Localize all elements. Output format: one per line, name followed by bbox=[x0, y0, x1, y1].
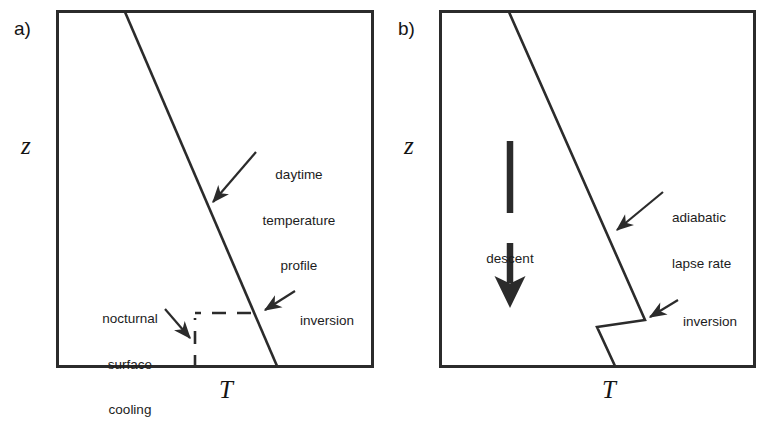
annotation-descent: descent bbox=[470, 221, 550, 297]
annotation-line: inversion bbox=[300, 313, 378, 328]
annotation-inversion-a: inversion bbox=[300, 283, 378, 359]
annotation-daytime-temperature-profile: daytime temperature profile bbox=[246, 137, 352, 303]
annotation-adiabatic-lapse-rate: adiabatic lapse rate bbox=[672, 180, 768, 301]
annotation-line: adiabatic bbox=[672, 210, 768, 225]
annotation-line: inversion bbox=[683, 314, 761, 329]
annotation-line: surface bbox=[88, 357, 172, 372]
panel-b-letter: b) bbox=[398, 18, 415, 39]
panel-a-x-axis-label: T bbox=[219, 376, 233, 404]
annotation-nocturnal-surface-cooling: nocturnal surface cooling bbox=[88, 281, 172, 423]
annotation-line: nocturnal bbox=[88, 311, 172, 326]
panel-a-letter: a) bbox=[14, 18, 31, 39]
adiabatic-lapse-rate-line bbox=[509, 12, 645, 366]
annotation-line: profile bbox=[246, 258, 352, 273]
panel-a-y-axis-label: z bbox=[21, 132, 31, 160]
panel-b-x-axis-label: T bbox=[602, 376, 616, 404]
panel-b-y-axis-label: z bbox=[404, 132, 414, 160]
annotation-line: cooling bbox=[88, 402, 172, 417]
annotation-inversion-b: inversion bbox=[683, 284, 761, 360]
annotation-line: daytime bbox=[246, 167, 352, 182]
inversion-arrow-b bbox=[650, 300, 678, 317]
figure-root: a) z T daytime temperature profile noctu… bbox=[0, 0, 773, 423]
adiabatic-lapse-rate-arrow bbox=[617, 192, 663, 230]
annotation-line: temperature bbox=[246, 213, 352, 228]
annotation-line: lapse rate bbox=[672, 256, 768, 271]
annotation-line: descent bbox=[470, 251, 550, 266]
